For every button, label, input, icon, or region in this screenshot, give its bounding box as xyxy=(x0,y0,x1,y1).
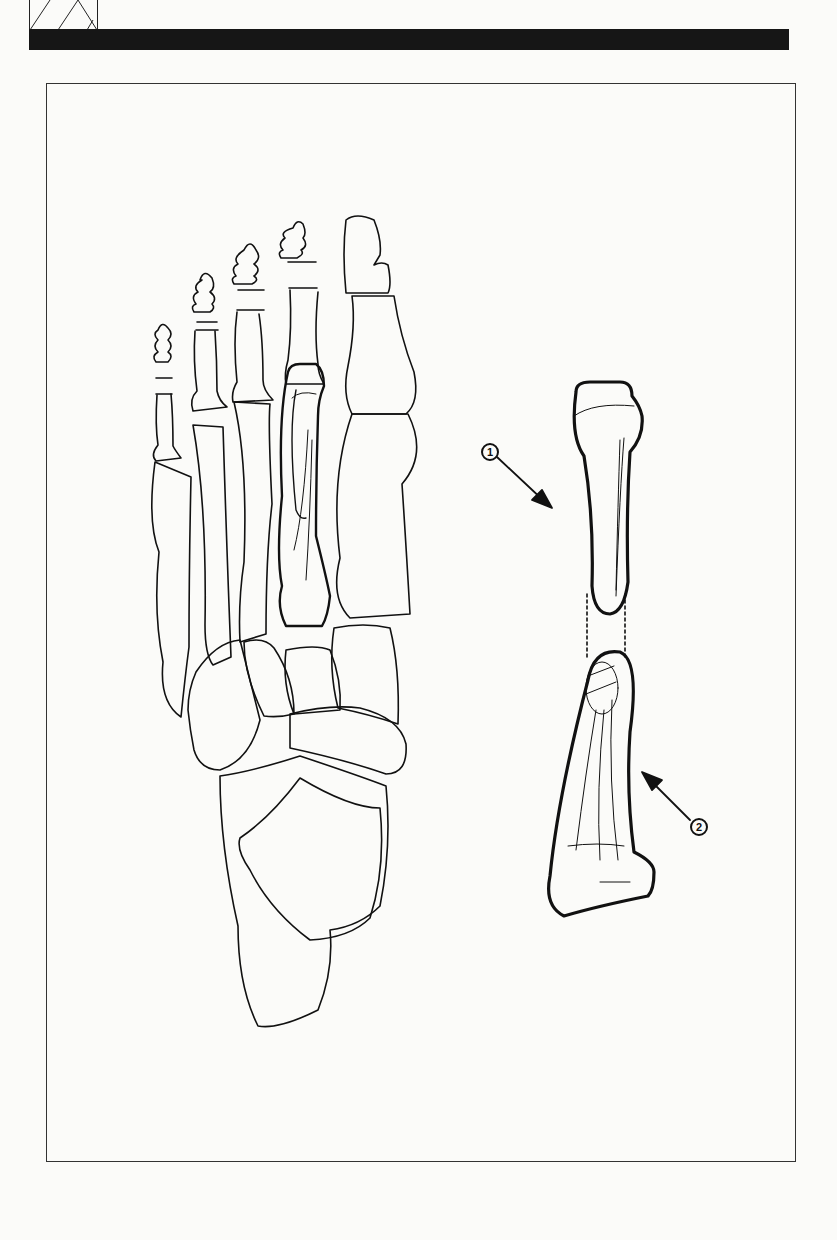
isolated-metatarsal-fragment-2 xyxy=(549,652,654,916)
callout-label-2: 2 xyxy=(690,818,708,836)
isolated-metatarsal-fragment-1 xyxy=(574,382,642,614)
hindfoot-bones xyxy=(220,756,388,1027)
tarsal-bones xyxy=(188,625,406,774)
toe-3-phalanges xyxy=(232,244,273,642)
isolated-metatarsal-fragment-1-detail xyxy=(574,405,634,596)
toe-4-phalanges xyxy=(192,273,231,665)
isolated-metatarsal-fragment-2-detail xyxy=(568,662,630,882)
callout-arrow-2 xyxy=(642,772,690,820)
foot-skeleton-illustration xyxy=(0,0,837,1240)
toe-5-phalanges xyxy=(152,324,191,717)
fracture-gap-dotted-lines xyxy=(587,594,625,660)
great-toe-phalanges xyxy=(337,216,417,618)
callout-arrow-1 xyxy=(497,457,552,508)
toe-2-phalanges xyxy=(279,222,324,384)
highlighted-metatarsal-in-foot xyxy=(279,364,330,626)
callout-label-1: 1 xyxy=(481,443,499,461)
